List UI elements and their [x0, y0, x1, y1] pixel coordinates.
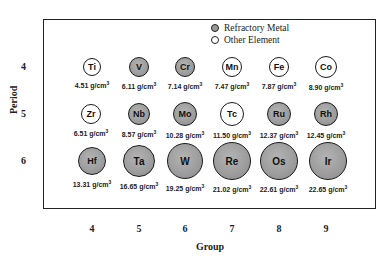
- legend-item-refractory: Refractory Metal: [211, 22, 289, 34]
- density-label-mn: 7.47 g/cm3: [215, 81, 250, 90]
- density-value: 8.90: [309, 84, 323, 91]
- element-ir: Ir: [309, 142, 347, 180]
- element-zr: Zr: [81, 104, 101, 124]
- density-unit: g/cm: [183, 185, 201, 192]
- element-cr: Cr: [175, 57, 195, 77]
- legend-item-other: Other Element: [211, 34, 289, 46]
- legend: Refractory Metal Other Element: [211, 22, 289, 46]
- density-unit: g/cm: [230, 186, 248, 193]
- density-unit-exponent: 3: [296, 184, 299, 190]
- density-value: 10.28: [166, 132, 184, 139]
- element-hf: Hf: [78, 147, 106, 175]
- density-unit: g/cm: [324, 132, 342, 139]
- group-tick-5: 5: [137, 223, 142, 234]
- element-ti: Ti: [83, 58, 101, 76]
- density-label-fe: 7.87 g/cm3: [262, 81, 297, 90]
- density-unit-exponent: 3: [202, 183, 205, 189]
- density-value: 7.14: [168, 83, 182, 90]
- density-unit: g/cm: [137, 183, 155, 190]
- density-label-tc: 11.50 g/cm3: [213, 130, 251, 139]
- density-unit-exponent: 3: [107, 80, 110, 86]
- density-value: 6.11: [122, 83, 135, 90]
- density-label-ta: 16.65 g/cm3: [120, 181, 159, 190]
- element-co: Co: [315, 56, 337, 78]
- density-value: 12.37: [260, 132, 278, 139]
- density-unit: g/cm: [135, 83, 153, 90]
- y-axis-label: Period: [8, 86, 19, 114]
- x-axis-label: Group: [196, 241, 224, 252]
- density-unit-exponent: 3: [341, 82, 344, 88]
- density-unit-exponent: 3: [154, 129, 157, 135]
- density-label-re: 21.02 g/cm3: [213, 184, 252, 193]
- other-marker-icon: [211, 36, 219, 44]
- density-unit-exponent: 3: [345, 184, 348, 190]
- element-mo: Mo: [173, 102, 197, 126]
- density-unit-exponent: 3: [343, 130, 346, 136]
- density-unit: g/cm: [135, 131, 153, 138]
- density-label-ru: 12.37 g/cm3: [260, 130, 299, 139]
- legend-label-other: Other Element: [224, 34, 280, 46]
- density-value: 22.61: [260, 186, 278, 193]
- density-value: 16.65: [120, 183, 138, 190]
- element-w: W: [167, 143, 203, 179]
- element-tc: Tc: [220, 102, 244, 126]
- density-unit-exponent: 3: [296, 130, 299, 136]
- density-label-os: 22.61 g/cm3: [260, 184, 299, 193]
- density-unit: g/cm: [88, 82, 106, 89]
- density-label-ti: 4.51 g/cm3: [75, 80, 110, 89]
- density-value: 6.51: [74, 130, 88, 137]
- density-value: 12.45: [307, 132, 325, 139]
- legend-label-refractory: Refractory Metal: [224, 22, 289, 34]
- element-ru: Ru: [267, 102, 291, 126]
- density-label-w: 19.25 g/cm3: [166, 183, 205, 192]
- density-unit-exponent: 3: [248, 130, 251, 136]
- period-tick-4: 4: [21, 61, 26, 72]
- density-value: 21.02: [213, 186, 231, 193]
- element-rh: Rh: [314, 102, 338, 126]
- density-label-nb: 8.57 g/cm3: [122, 129, 157, 138]
- element-nb: Nb: [128, 103, 150, 125]
- group-tick-4: 4: [90, 223, 95, 234]
- period-tick-6: 6: [21, 155, 26, 166]
- element-v: V: [129, 57, 149, 77]
- density-unit: g/cm: [277, 186, 295, 193]
- density-unit-exponent: 3: [202, 130, 205, 136]
- density-label-v: 6.11 g/cm3: [122, 81, 156, 90]
- density-label-ir: 22.65 g/cm3: [309, 184, 348, 193]
- density-value: 13.31: [73, 181, 91, 188]
- element-fe: Fe: [269, 57, 289, 77]
- element-ta: Ta: [123, 145, 155, 177]
- density-unit: g/cm: [90, 181, 108, 188]
- refractory-marker-icon: [211, 24, 219, 32]
- density-value: 7.47: [215, 83, 229, 90]
- density-unit-exponent: 3: [247, 81, 250, 87]
- density-label-mo: 10.28 g/cm3: [166, 130, 205, 139]
- density-unit: g/cm: [322, 84, 340, 91]
- group-tick-8: 8: [277, 223, 282, 234]
- density-unit-exponent: 3: [153, 81, 156, 87]
- density-unit-exponent: 3: [106, 128, 109, 134]
- density-value: 7.87: [262, 83, 276, 90]
- density-unit-exponent: 3: [294, 81, 297, 87]
- density-unit: g/cm: [230, 132, 248, 139]
- density-label-co: 8.90 g/cm3: [309, 82, 344, 91]
- density-unit-exponent: 3: [156, 181, 159, 187]
- density-unit-exponent: 3: [200, 81, 203, 87]
- density-unit: g/cm: [277, 132, 295, 139]
- density-value: 4.51: [75, 82, 89, 89]
- density-label-rh: 12.45 g/cm3: [307, 130, 346, 139]
- element-mn: Mn: [222, 57, 242, 77]
- density-unit: g/cm: [275, 83, 293, 90]
- period-tick-5: 5: [21, 108, 26, 119]
- density-unit: g/cm: [326, 186, 344, 193]
- group-tick-9: 9: [324, 223, 329, 234]
- group-tick-6: 6: [183, 223, 188, 234]
- density-label-cr: 7.14 g/cm3: [168, 81, 203, 90]
- density-unit: g/cm: [87, 130, 105, 137]
- density-value: 8.57: [122, 131, 136, 138]
- density-label-hf: 13.31 g/cm3: [73, 179, 112, 188]
- density-unit-exponent: 3: [109, 179, 112, 185]
- element-re: Re: [213, 142, 251, 180]
- density-unit: g/cm: [183, 132, 201, 139]
- element-os: Os: [260, 142, 298, 180]
